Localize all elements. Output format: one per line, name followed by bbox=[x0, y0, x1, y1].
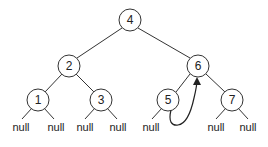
null-label-7-right: null bbox=[239, 121, 256, 133]
node-label: 3 bbox=[98, 93, 105, 107]
node-6: 6 bbox=[187, 55, 209, 77]
edge-4-2 bbox=[77, 28, 122, 58]
node-label: 7 bbox=[229, 93, 236, 107]
null-edge-7-right bbox=[238, 108, 248, 119]
null-edge-7-left bbox=[216, 108, 226, 119]
edge-6-7 bbox=[206, 74, 225, 92]
null-edge-3-left bbox=[85, 108, 95, 119]
node-5: 5 bbox=[157, 89, 179, 111]
node-label: 2 bbox=[66, 59, 73, 73]
edge-6-5 bbox=[176, 74, 190, 92]
node-3: 3 bbox=[90, 89, 112, 111]
null-label-3-left: null bbox=[76, 121, 93, 133]
node-label: 4 bbox=[127, 13, 134, 27]
edge-2-3 bbox=[76, 74, 94, 92]
node-2: 2 bbox=[58, 55, 80, 77]
node-7: 7 bbox=[221, 89, 243, 111]
threaded-binary-tree-diagram: 4 2 6 1 3 5 7 null null null null null n… bbox=[0, 0, 268, 147]
node-label: 6 bbox=[195, 59, 202, 73]
node-label: 1 bbox=[35, 93, 42, 107]
null-edge-3-right bbox=[107, 108, 117, 119]
null-edge-1-right bbox=[44, 108, 54, 119]
null-edge-5-left bbox=[152, 108, 162, 119]
edge-4-6 bbox=[138, 28, 190, 58]
null-edge-1-left bbox=[22, 108, 32, 119]
node-1: 1 bbox=[27, 89, 49, 111]
null-label-7-left: null bbox=[207, 121, 224, 133]
null-label-1-left: null bbox=[12, 121, 29, 133]
null-label-5-left: null bbox=[142, 121, 159, 133]
edge-2-1 bbox=[45, 74, 62, 92]
null-edges bbox=[22, 108, 248, 119]
node-4: 4 bbox=[119, 9, 141, 31]
null-label-1-right: null bbox=[47, 121, 64, 133]
node-label: 5 bbox=[165, 93, 172, 107]
null-label-3-right: null bbox=[109, 121, 126, 133]
null-labels: null null null null null null null bbox=[12, 121, 256, 133]
